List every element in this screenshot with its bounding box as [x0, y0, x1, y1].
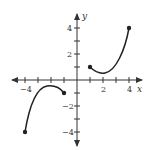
x-tick-label-neg4: −4: [20, 85, 32, 94]
x-tick-label-4: 4: [127, 85, 132, 94]
y-axis-up-arrow-icon: [74, 13, 80, 20]
y-axis-down-arrow-icon: [74, 140, 80, 147]
left-curve-start-dot: [23, 130, 27, 134]
y-tick-label-neg4: −4: [62, 128, 74, 137]
x-axis-left-arrow-icon: [11, 77, 18, 83]
y-axis-label: y: [81, 11, 88, 21]
x-axis-right-arrow-icon: [136, 77, 143, 83]
function-graph: −4 2 4 x 4 2 −2 −4 y: [0, 0, 150, 150]
left-curve-end-dot: [62, 91, 66, 95]
right-curve: [90, 28, 129, 73]
y-tick-label-2: 2: [67, 50, 72, 59]
x-tick-label-2: 2: [101, 85, 106, 94]
right-curve-start-dot: [88, 65, 92, 69]
right-curve-end-dot: [127, 26, 131, 30]
y-tick-label-neg2: −2: [62, 102, 74, 111]
x-axis-label: x: [137, 84, 142, 94]
y-tick-label-4: 4: [67, 24, 72, 33]
